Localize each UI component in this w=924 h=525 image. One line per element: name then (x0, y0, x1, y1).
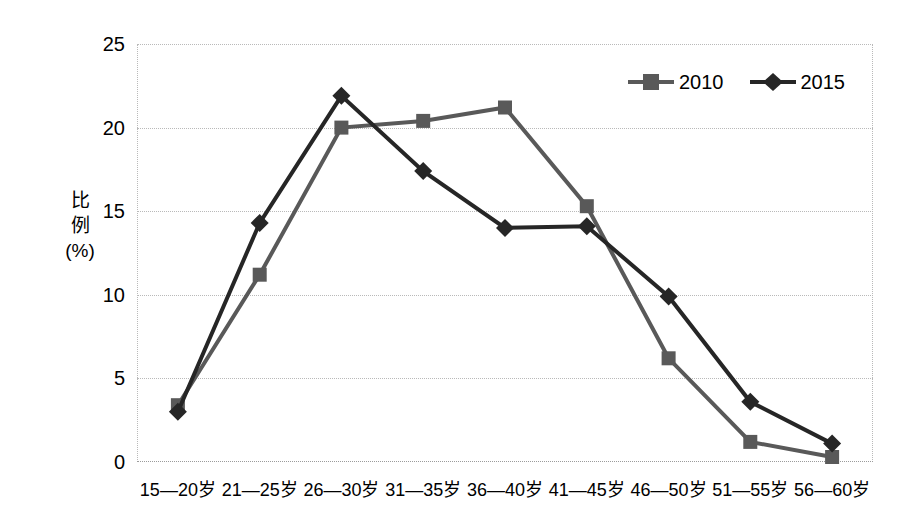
x-tick-label: 36—40岁 (464, 478, 546, 512)
legend-entry-2010[interactable]: 2010 (628, 72, 724, 92)
x-tick-label: 21—25岁 (219, 478, 301, 512)
y-tick-label: 5 (89, 368, 125, 388)
data-point-2010-26—30岁 (334, 121, 348, 135)
y-tick-label: 0 (89, 452, 125, 472)
data-point-2010-51—55岁 (743, 435, 757, 449)
legend-label-2010: 2010 (679, 72, 724, 92)
series-line-2015 (178, 96, 832, 444)
legend: 2010 2015 (628, 72, 845, 92)
x-axis-tick-labels: 15—20岁21—25岁26—30岁31—35岁36—40岁41—45岁46—5… (137, 478, 873, 512)
y-axis-title: 比 例 (%) (52, 188, 108, 263)
data-point-2010-41—45岁 (580, 199, 594, 213)
x-tick-label: 15—20岁 (137, 478, 219, 512)
legend-label-2015: 2015 (801, 72, 846, 92)
x-tick-label: 31—35岁 (382, 478, 464, 512)
x-tick-label: 51—55岁 (709, 478, 791, 512)
data-point-2010-46—50岁 (662, 351, 676, 365)
data-point-2015-56—60岁 (823, 435, 841, 453)
legend-key-2015-diamond-icon (750, 72, 796, 92)
data-point-2010-21—25岁 (253, 268, 267, 282)
y-axis-title-line-3: (%) (52, 238, 108, 263)
legend-key-2010-square-icon (628, 72, 674, 92)
legend-entry-2015[interactable]: 2015 (750, 72, 846, 92)
series-plot (137, 44, 873, 462)
data-point-2010-31—35岁 (416, 114, 430, 128)
data-point-2010-36—40岁 (498, 101, 512, 115)
x-tick-label: 56—60岁 (791, 478, 873, 512)
y-tick-label: 20 (89, 118, 125, 138)
y-tick-label: 15 (89, 201, 125, 221)
y-tick-label: 25 (89, 34, 125, 54)
x-tick-label: 46—50岁 (628, 478, 710, 512)
line-chart: 比 例 (%) 0510152025 2010 2015 (0, 0, 924, 525)
y-tick-label: 10 (89, 285, 125, 305)
x-tick-label: 26—30岁 (301, 478, 383, 512)
series-line-2010 (178, 108, 832, 458)
x-tick-label: 41—45岁 (546, 478, 628, 512)
